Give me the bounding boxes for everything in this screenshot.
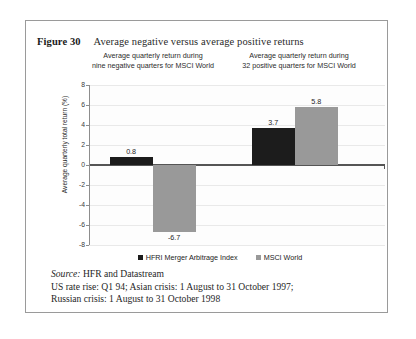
- y-axis-tick-label: -2: [55, 181, 85, 188]
- bar-series1-group2: [252, 128, 295, 165]
- gridline: [89, 205, 385, 206]
- footer-source-line: Source: HFR and Datastream: [51, 268, 403, 281]
- y-axis-tick-label: 2: [55, 141, 85, 148]
- legend-item-series1: HFRI Merger Arbitrage Index: [138, 253, 238, 262]
- legend-label-series1: HFRI Merger Arbitrage Index: [146, 253, 238, 262]
- gridline: [89, 85, 385, 86]
- y-axis-spine: [89, 85, 90, 245]
- figure-number: Figure 30: [37, 36, 81, 47]
- chart-plot-area: 0.8-6.73.75.8: [89, 85, 385, 245]
- y-axis-tick-label: 8: [55, 81, 85, 88]
- bar-series2-group1: [153, 165, 196, 232]
- bar-value-label: -6.7: [153, 233, 196, 242]
- bar-value-label: 3.7: [252, 118, 295, 127]
- y-axis-tick-label: 0: [55, 161, 85, 168]
- gridline: [89, 245, 385, 246]
- footer-line-3: Russian crisis: 1 August to 31 October 1…: [51, 293, 403, 306]
- legend-item-series2: MSCI World: [256, 253, 303, 262]
- y-axis-tick-label: 4: [55, 121, 85, 128]
- source-label: Source:: [51, 268, 80, 279]
- gridline: [89, 105, 385, 106]
- bar-value-label: 5.8: [295, 97, 338, 106]
- subtitle-right-line2: 32 positive quarters for MSCI World: [224, 61, 374, 71]
- source-text: HFR and Datastream: [83, 268, 164, 279]
- axis-end-tick: [384, 165, 385, 169]
- footer-line-2: US rate rise: Q1 94; Asian crisis: 1 Aug…: [51, 281, 403, 294]
- gridline: [89, 145, 385, 146]
- gridline: [89, 125, 385, 126]
- bar-series2-group2: [295, 107, 338, 165]
- subtitle-left-group: Average quarterly return during nine neg…: [82, 51, 224, 70]
- chart-plot-wrapper: Average quarterly total return (%) 86420…: [51, 79, 389, 251]
- gridline: [89, 185, 385, 186]
- figure-footer: Source: HFR and Datastream US rate rise:…: [51, 268, 403, 306]
- subtitle-right-group: Average quarterly return during 32 posit…: [224, 51, 374, 70]
- legend-swatch-icon-series1: [138, 255, 143, 260]
- figure-container: Figure 30Average negative versus average…: [25, 20, 388, 313]
- y-axis-tick-label: -8: [55, 241, 85, 248]
- gridline: [89, 225, 385, 226]
- y-axis-tick-label: 6: [55, 101, 85, 108]
- subtitle-right-line1: Average quarterly return during: [224, 51, 374, 61]
- y-axis-tick-label: -6: [55, 221, 85, 228]
- y-axis-tick-label: -4: [55, 201, 85, 208]
- subtitle-left-line2: nine negative quarters for MSCI World: [82, 61, 224, 71]
- chart-legend: HFRI Merger Arbitrage Index MSCI World: [51, 253, 389, 262]
- legend-swatch-icon-series2: [256, 255, 261, 260]
- page-title: Average negative versus average positive…: [94, 36, 304, 47]
- bar-series1-group1: [110, 157, 153, 165]
- figure-title-row: Figure 30Average negative versus average…: [37, 31, 377, 47]
- subtitle-left-line1: Average quarterly return during: [82, 51, 224, 61]
- bar-value-label: 0.8: [110, 147, 153, 156]
- legend-label-series2: MSCI World: [264, 253, 303, 262]
